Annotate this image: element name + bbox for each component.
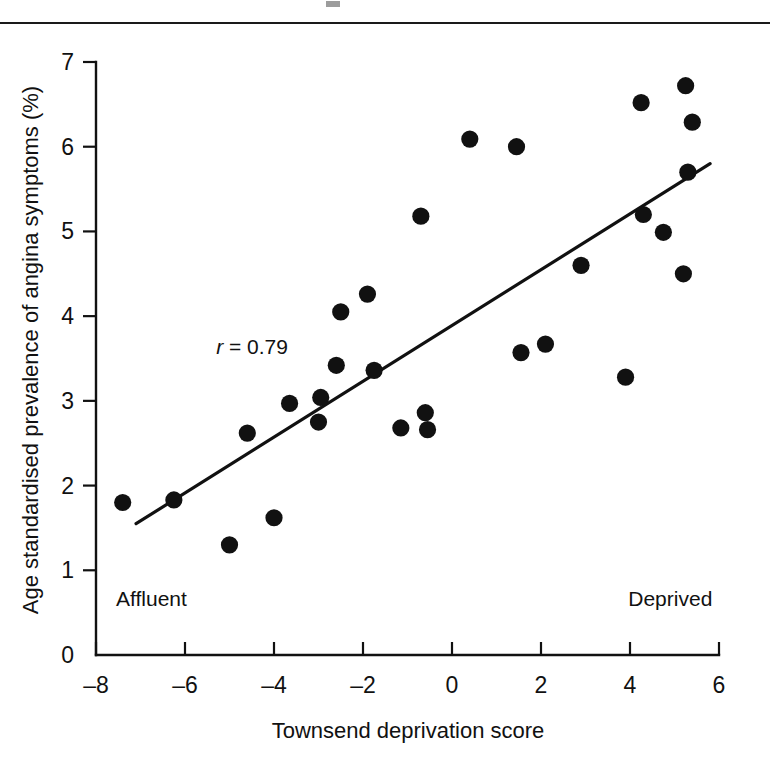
data-point	[332, 303, 349, 320]
data-point	[310, 413, 327, 430]
x-axis-title: Townsend deprivation score	[272, 718, 545, 743]
x-tick-label: 4	[624, 672, 637, 698]
scatter-plot: 01234567–8–6–4–20246 Townsend deprivatio…	[0, 0, 770, 767]
data-point	[392, 419, 409, 436]
data-point	[221, 536, 238, 553]
y-tick-label: 2	[61, 473, 74, 499]
x-tick-label: 0	[446, 672, 459, 698]
data-point	[677, 77, 694, 94]
y-axis-title: Age standardised prevalence of angina sy…	[18, 86, 43, 614]
data-point	[328, 357, 345, 374]
correlation-value: = 0.79	[223, 335, 288, 358]
x-tick-label: 6	[713, 672, 726, 698]
data-point	[114, 494, 131, 511]
x-tick-label: 2	[535, 672, 548, 698]
data-point	[617, 369, 634, 386]
data-point	[412, 208, 429, 225]
data-point	[419, 421, 436, 438]
data-point	[461, 130, 478, 147]
figure-container: 01234567–8–6–4–20246 Townsend deprivatio…	[0, 0, 770, 767]
y-tick-label: 7	[61, 49, 74, 75]
data-point	[359, 286, 376, 303]
x-tick-label: –2	[350, 672, 376, 698]
y-tick-label: 4	[61, 303, 74, 329]
data-point	[512, 344, 529, 361]
data-point	[684, 114, 701, 131]
data-point	[312, 389, 329, 406]
deprived-label: Deprived	[628, 587, 712, 610]
correlation-annotation: r = 0.79	[216, 335, 288, 358]
x-tick-label: –4	[261, 672, 287, 698]
data-point	[366, 362, 383, 379]
affluent-label: Affluent	[116, 587, 187, 610]
x-tick-label: –6	[172, 672, 198, 698]
data-point	[417, 404, 434, 421]
y-tick-label: 1	[61, 557, 74, 583]
data-point	[633, 94, 650, 111]
data-point	[537, 335, 554, 352]
y-tick-label: 6	[61, 134, 74, 160]
data-point	[265, 509, 282, 526]
data-point	[281, 395, 298, 412]
y-tick-label: 3	[61, 388, 74, 414]
data-point	[165, 491, 182, 508]
data-point	[675, 265, 692, 282]
data-point	[508, 138, 525, 155]
data-point	[572, 257, 589, 274]
y-tick-label: 0	[61, 642, 74, 668]
x-tick-label: –8	[83, 672, 109, 698]
data-point	[239, 424, 256, 441]
axes-group	[96, 62, 719, 655]
data-point	[679, 164, 696, 181]
y-tick-label: 5	[61, 218, 74, 244]
data-point	[635, 206, 652, 223]
data-point	[655, 224, 672, 241]
